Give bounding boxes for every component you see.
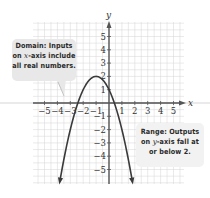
- svg-text:−1: −1: [93, 111, 106, 121]
- y-axis-label: y: [105, 10, 112, 20]
- parabola-graph: −5−4−3−2−112345−5−4−3−2−112345 x y: [0, 0, 210, 198]
- svg-text:5: 5: [171, 106, 176, 116]
- svg-text:5: 5: [101, 32, 106, 42]
- range-line-2-post: -axis fall at: [157, 137, 199, 146]
- domain-line-2: on x-axis include: [12, 51, 76, 61]
- svg-text:−2: −2: [77, 106, 90, 116]
- range-line-2-pre: on: [141, 137, 153, 146]
- domain-callout: Domain: Inputs on x-axis include all rea…: [12, 39, 76, 81]
- svg-text:1: 1: [119, 106, 124, 116]
- domain-line-2-post: -axis include: [28, 51, 75, 60]
- svg-text:4: 4: [101, 45, 106, 55]
- svg-text:−3: −3: [93, 138, 106, 148]
- range-line-3: or below 2.: [136, 147, 204, 157]
- svg-text:−5: −5: [38, 106, 51, 116]
- svg-text:−5: −5: [93, 165, 106, 175]
- svg-text:3: 3: [145, 106, 150, 116]
- domain-line-2-pre: on: [12, 51, 24, 60]
- svg-text:−2: −2: [93, 125, 106, 135]
- svg-text:2: 2: [132, 106, 137, 116]
- domain-line-1: Domain: Inputs: [12, 41, 76, 51]
- x-axis-label: x: [188, 98, 193, 108]
- svg-text:−4: −4: [93, 151, 106, 161]
- range-line-1: Range: Outputs: [136, 127, 204, 137]
- svg-text:4: 4: [158, 106, 163, 116]
- svg-text:−4: −4: [51, 106, 64, 116]
- range-callout: Range: Outputs on y-axis fall at or belo…: [136, 123, 204, 167]
- svg-text:3: 3: [101, 58, 106, 68]
- svg-text:1: 1: [101, 85, 106, 95]
- domain-line-3: all real numbers.: [12, 61, 76, 71]
- range-line-2: on y-axis fall at: [136, 137, 204, 147]
